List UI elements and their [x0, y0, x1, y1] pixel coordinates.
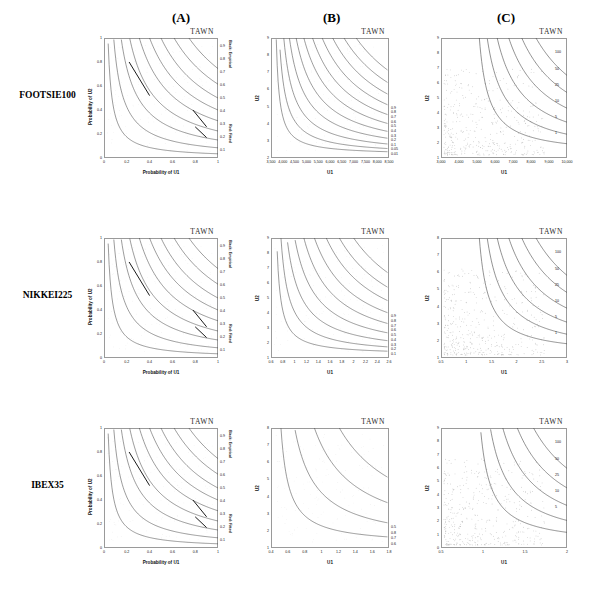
- x-axis-title: U1: [327, 370, 333, 375]
- y-tick-label: 6: [262, 281, 269, 285]
- y-tick-label: 5: [262, 105, 269, 109]
- x-tick-label: 7,000: [509, 160, 518, 164]
- y-tick-label: 5: [262, 296, 269, 300]
- right-tick-label: 0.7: [220, 460, 225, 464]
- y-axis-title: Probability of U2: [88, 89, 93, 126]
- y-tick-label: 0: [432, 546, 439, 550]
- x-tick-label: 1.2: [304, 360, 309, 364]
- plot-ibex-B: TAWN0.40.60.811.21.41.61.812345678U1U20.…: [271, 428, 389, 548]
- contour-label: 0.8: [391, 531, 396, 535]
- plot-curves: [104, 428, 218, 548]
- x-tick-label: 2.4: [375, 360, 380, 364]
- y-tick-label: 2: [432, 519, 439, 523]
- x-tick-label: 0.6: [269, 360, 274, 364]
- y-tick-label: 3: [432, 322, 439, 326]
- plot-nikkei-A: TAWN00.20.40.60.8100.20.40.60.81Probabil…: [104, 238, 218, 358]
- y-tick-label: 0.4: [95, 308, 102, 312]
- y-tick-label: 3: [432, 126, 439, 130]
- y-tick-label: 0.4: [95, 498, 102, 502]
- x-tick-label: 5,500: [314, 160, 323, 164]
- x-tick-label: 8,500: [385, 160, 394, 164]
- x-tick-label: 3,500: [267, 160, 276, 164]
- contour-label: 0.9: [391, 106, 396, 110]
- y-tick-label: 1: [95, 36, 102, 40]
- right-tick-label: 0.6: [220, 283, 225, 287]
- y-axis-title: U2: [425, 95, 430, 101]
- contour-label: 0.1: [391, 352, 396, 356]
- plot-curves: [441, 38, 567, 158]
- x-tick-label: 0.2: [124, 360, 129, 364]
- contour-label: 5: [555, 115, 557, 119]
- y-tick-label: 2: [262, 341, 269, 345]
- plot-curves: [271, 238, 389, 358]
- y-tick-label: 6: [262, 87, 269, 91]
- contour-label: 0.4: [391, 338, 396, 342]
- y-axis-title: Probability of U2: [88, 289, 93, 326]
- y-tick-label: 5: [432, 479, 439, 483]
- y-tick-label: 4: [432, 111, 439, 115]
- y-tick-label: 0.6: [95, 84, 102, 88]
- x-axis-title: U1: [327, 170, 333, 175]
- y-axis-title: U2: [255, 295, 260, 301]
- x-axis-title: U1: [501, 370, 507, 375]
- y-tick-label: 0.2: [95, 522, 102, 526]
- y-tick-label: 8: [262, 251, 269, 255]
- x-tick-label: 3,000: [437, 160, 446, 164]
- row-label-footsie100: FOOTSIE100: [0, 90, 95, 100]
- y-tick-label: 0.6: [95, 284, 102, 288]
- plot-curves: [271, 38, 389, 158]
- contour-label: 100: [555, 440, 561, 444]
- y-tick-label: 0.2: [95, 132, 102, 136]
- plot-curves: [271, 428, 389, 548]
- x-tick-label: 0.4: [269, 550, 274, 554]
- y-tick-label: 9: [262, 236, 269, 240]
- x-tick-label: 0.4: [147, 360, 152, 364]
- contour-label: 0.5: [391, 124, 396, 128]
- right-tick-label: 0.2: [220, 525, 225, 529]
- y-tick-label: 7: [262, 443, 269, 447]
- y-tick-label: 0: [95, 156, 102, 160]
- contour-label: 0.1: [391, 143, 396, 147]
- y-tick-label: 7: [432, 253, 439, 257]
- x-tick-label: 0.5: [439, 360, 444, 364]
- x-tick-label: 0.8: [193, 360, 198, 364]
- y-tick-label: 3: [262, 512, 269, 516]
- contour-label: 1: [555, 131, 557, 135]
- y-tick-label: 0.8: [95, 260, 102, 264]
- right-tick-label: 0.4: [220, 109, 225, 113]
- y-tick-label: 0: [95, 546, 102, 550]
- y-tick-label: 4: [262, 311, 269, 315]
- x-tick-label: 4,500: [290, 160, 299, 164]
- x-tick-label: 1: [321, 550, 323, 554]
- plot-title-nikkei-C: TAWN: [539, 227, 563, 236]
- contour-label: 10: [555, 489, 559, 493]
- y-tick-label: 8: [432, 236, 439, 240]
- y-tick-label: 5: [432, 96, 439, 100]
- contour-label: 25: [555, 283, 559, 287]
- figure-canvas: (A) (B) (C) FOOTSIE100 NIKKEI225 IBEX35 …: [0, 0, 595, 591]
- y-tick-label: 3: [262, 139, 269, 143]
- plot-title-ibex-B: TAWN: [361, 417, 385, 426]
- legend-note-fitted: Red: Fitted: [228, 324, 232, 343]
- legend-note-fitted: Red: Fitted: [228, 124, 232, 143]
- y-tick-label: 6: [432, 466, 439, 470]
- contour-label: 0.7: [391, 324, 396, 328]
- legend-note-empirical: Black: Empirical: [228, 40, 232, 68]
- contour-label: 0.3: [391, 134, 396, 138]
- right-tick-label: 0.1: [220, 148, 225, 152]
- right-tick-label: 0.3: [220, 512, 225, 516]
- y-tick-label: 0.8: [95, 60, 102, 64]
- x-tick-label: 0.8: [193, 550, 198, 554]
- plot-footsie-C: TAWN3,0004,0005,0006,0007,0008,0009,0001…: [441, 38, 567, 158]
- x-axis-title: Probability of U1: [143, 170, 180, 175]
- contour-label: 25: [555, 83, 559, 87]
- right-tick-label: 0.3: [220, 322, 225, 326]
- y-tick-label: 5: [432, 287, 439, 291]
- x-axis-title: U1: [501, 560, 507, 565]
- y-tick-label: 7: [432, 453, 439, 457]
- x-tick-label: 1.6: [370, 550, 375, 554]
- y-axis-title: U2: [255, 95, 260, 101]
- y-tick-label: 1: [95, 236, 102, 240]
- plot-ibex-C: TAWN0.511.520123456789U1U21005025105: [441, 428, 567, 548]
- column-header-b: (B): [323, 10, 340, 26]
